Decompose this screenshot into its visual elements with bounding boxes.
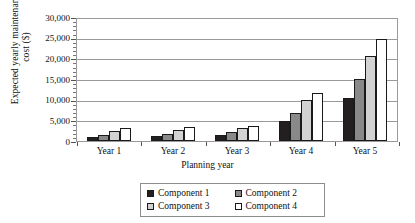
y-axis-minor-tick <box>73 26 76 27</box>
legend-swatch-icon <box>235 190 242 197</box>
y-axis-tick-label: 15,000 <box>24 76 70 85</box>
bar <box>151 136 162 141</box>
x-axis-tick-mark <box>77 142 78 146</box>
bar <box>87 137 98 141</box>
y-axis-tick-label: 25,000 <box>24 34 70 43</box>
bar <box>279 121 290 141</box>
y-axis-tick-label: 20,000 <box>24 55 70 64</box>
legend-item: Component 2 <box>235 187 319 199</box>
bar-group <box>141 19 205 141</box>
legend-swatch-icon <box>147 190 154 197</box>
y-axis-minor-tick <box>73 76 76 77</box>
y-axis-tick-label: 0 <box>24 138 70 147</box>
bar <box>162 134 173 141</box>
y-axis-minor-tick <box>73 134 76 135</box>
y-axis-minor-tick <box>73 84 76 85</box>
x-axis-tick-mark <box>206 142 207 146</box>
bar <box>98 135 109 141</box>
bar <box>184 127 195 141</box>
x-axis-category-label: Year 1 <box>77 146 141 156</box>
x-axis-tick-mark <box>335 142 336 146</box>
y-axis-tick-label: 10,000 <box>24 96 70 105</box>
y-axis-tick-mark <box>71 59 76 60</box>
y-axis-minor-tick <box>73 47 76 48</box>
y-axis-tick-mark <box>71 121 76 122</box>
x-axis-category-label: Year 2 <box>141 146 205 156</box>
bar <box>109 131 120 141</box>
y-axis-minor-tick <box>73 109 76 110</box>
bar-group <box>77 19 141 141</box>
x-axis-category-label: Year 4 <box>269 146 333 156</box>
y-axis-minor-tick <box>73 55 76 56</box>
bar <box>376 39 387 141</box>
bar <box>248 126 259 141</box>
x-axis-category-label: Year 5 <box>333 146 397 156</box>
bar-group <box>205 19 269 141</box>
legend-label: Component 2 <box>246 187 297 199</box>
bar-group <box>269 19 333 141</box>
x-axis-category-labels: Year 1Year 2Year 3Year 4Year 5 <box>77 146 397 156</box>
x-axis-category-label: Year 3 <box>205 146 269 156</box>
bar <box>120 128 131 141</box>
y-axis-minor-tick <box>73 138 76 139</box>
y-axis-minor-tick <box>73 51 76 52</box>
bar <box>354 79 365 141</box>
bar-groups <box>77 19 397 141</box>
y-axis-tick-mark <box>71 18 76 19</box>
bar <box>173 130 184 141</box>
y-axis-tick-mark <box>71 101 76 102</box>
legend-label: Component 4 <box>246 200 297 212</box>
chart-legend: Component 1Component 2Component 3Compone… <box>140 183 325 217</box>
legend-item: Component 3 <box>147 200 231 212</box>
y-axis-minor-tick <box>73 97 76 98</box>
bar <box>215 135 226 142</box>
bar <box>290 113 301 141</box>
y-axis-minor-tick <box>73 63 76 64</box>
bar <box>237 128 248 141</box>
y-axis-minor-tick <box>73 105 76 106</box>
bar-group <box>333 19 397 141</box>
x-axis-title: Planning year <box>0 160 415 170</box>
y-axis-minor-tick <box>73 72 76 73</box>
x-axis-tick-mark <box>141 142 142 146</box>
y-axis-minor-tick <box>73 117 76 118</box>
bar <box>343 98 354 141</box>
bar <box>312 93 323 141</box>
legend-label: Component 1 <box>158 187 209 199</box>
y-axis-minor-tick <box>73 92 76 93</box>
y-axis-minor-tick <box>73 43 76 44</box>
legend-item: Component 4 <box>235 200 319 212</box>
bar <box>365 56 376 141</box>
y-axis-tick-label: 30,000 <box>24 14 70 23</box>
legend-swatch-icon <box>235 203 242 210</box>
y-axis-minor-tick <box>73 30 76 31</box>
y-axis-tick-mark <box>71 39 76 40</box>
bar-chart-figure: Expected yearly maintenance cost ($) Yea… <box>0 0 415 223</box>
y-axis-minor-tick <box>73 125 76 126</box>
x-axis-tick-mark <box>399 142 400 146</box>
y-axis-tick-label: 5,000 <box>24 117 70 126</box>
y-axis-minor-tick <box>73 35 76 36</box>
legend-swatch-icon <box>147 203 154 210</box>
bar <box>301 100 312 141</box>
y-axis-minor-tick <box>73 130 76 131</box>
x-axis-title-text: Planning year <box>181 160 234 170</box>
y-axis-minor-tick <box>73 68 76 69</box>
legend-label: Component 3 <box>158 200 209 212</box>
legend-item: Component 1 <box>147 187 231 199</box>
bar <box>226 132 237 141</box>
x-axis-tick-mark <box>270 142 271 146</box>
y-axis-tick-mark <box>71 80 76 81</box>
y-axis-tick-mark <box>71 142 76 143</box>
y-axis-minor-tick <box>73 22 76 23</box>
y-axis-minor-tick <box>73 113 76 114</box>
y-axis-minor-tick <box>73 88 76 89</box>
